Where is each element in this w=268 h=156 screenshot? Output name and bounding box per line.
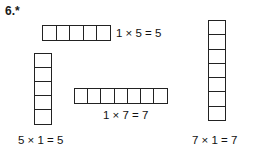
array-seven-by-one <box>208 20 226 121</box>
equation-five-times-one: 5 × 1 = 5 <box>18 134 63 147</box>
array-cell <box>208 106 226 122</box>
array-cell <box>96 25 111 41</box>
equation-one-times-seven: 1 × 7 = 7 <box>103 109 148 122</box>
array-one-by-seven <box>74 88 168 104</box>
array-cell <box>34 109 52 125</box>
worksheet-figure: 6.* 1 × 5 = 5 5 × 1 = 5 1 × 7 = 7 7 × 1 … <box>0 0 268 156</box>
equation-one-times-five: 1 × 5 = 5 <box>116 27 161 40</box>
equation-seven-times-one: 7 × 1 = 7 <box>192 134 237 147</box>
exercise-number: 6.* <box>5 4 20 18</box>
array-cell <box>153 88 168 104</box>
array-five-by-one <box>34 53 52 125</box>
array-one-by-five <box>42 25 111 41</box>
